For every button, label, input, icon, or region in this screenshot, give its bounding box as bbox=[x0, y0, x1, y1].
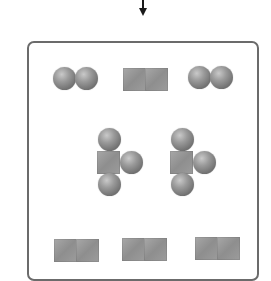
sphere-atom bbox=[98, 128, 121, 151]
sphere-atom bbox=[98, 173, 121, 196]
sphere-atom bbox=[193, 151, 216, 174]
cube-atom bbox=[97, 151, 120, 174]
cube-atom bbox=[54, 239, 77, 262]
arrow-down-icon bbox=[139, 8, 147, 16]
sphere-atom bbox=[75, 67, 98, 90]
sphere-atom bbox=[53, 67, 76, 90]
sphere-atom bbox=[171, 173, 194, 196]
sphere-atom bbox=[188, 66, 211, 89]
sphere-atom bbox=[120, 151, 143, 174]
sphere-atom bbox=[210, 66, 233, 89]
cube-atom bbox=[144, 238, 167, 261]
cube-atom bbox=[76, 239, 99, 262]
cube-atom bbox=[122, 238, 145, 261]
cube-atom bbox=[145, 68, 168, 91]
cube-atom bbox=[123, 68, 146, 91]
cube-atom bbox=[195, 237, 218, 260]
sphere-atom bbox=[171, 128, 194, 151]
cube-atom bbox=[170, 151, 193, 174]
cube-atom bbox=[217, 237, 240, 260]
